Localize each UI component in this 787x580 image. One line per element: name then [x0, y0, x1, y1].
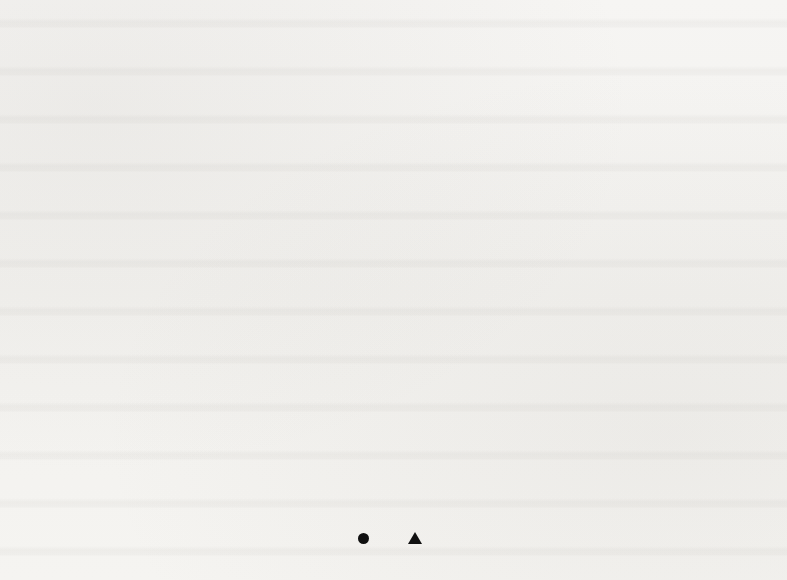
- y-axis-labels: [0, 0, 229, 580]
- legend-item-united-states: [408, 528, 429, 548]
- legend-item-canada: [358, 528, 376, 548]
- chart-legend: [0, 527, 787, 548]
- figure-page: [0, 0, 787, 580]
- triangle-marker-icon: [408, 532, 422, 544]
- circle-marker-icon: [358, 533, 369, 544]
